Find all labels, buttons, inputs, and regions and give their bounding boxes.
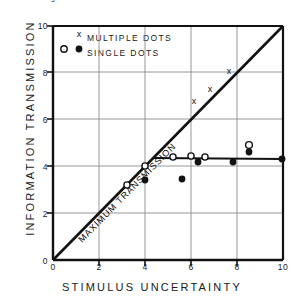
- legend-open-circle-icon: [61, 46, 67, 52]
- scatter-plot: MAXIMUM TRANSMISSION x x x: [0, 0, 304, 300]
- figure-container: Fig 4. Relation between information tran…: [0, 0, 304, 300]
- filled-circle-2: [179, 176, 186, 183]
- open-circle-6: [246, 142, 253, 149]
- open-circle-3: [170, 154, 176, 160]
- tick-marks: [47, 26, 237, 266]
- open-circle-1: [124, 182, 130, 188]
- x-marker-1: x: [192, 96, 197, 106]
- legend-markers: x: [61, 29, 83, 52]
- open-circle-2: [142, 163, 148, 169]
- x-marker-3: x: [227, 66, 232, 76]
- maximum-transmission-label: MAXIMUM TRANSMISSION: [76, 141, 178, 244]
- open-circle-5: [202, 154, 208, 160]
- legend-filled-circle-icon: [76, 46, 83, 53]
- filled-circle-6: [279, 156, 286, 163]
- x-marker-2: x: [208, 84, 213, 94]
- legend-x-icon: x: [77, 29, 82, 39]
- filled-circle-5: [246, 149, 253, 156]
- filled-circle-3: [195, 159, 202, 166]
- maximum-transmission-label-text: MAXIMUM TRANSMISSION: [76, 141, 178, 244]
- filled-circle-4: [230, 159, 237, 166]
- open-circle-4: [188, 153, 194, 159]
- filled-circle-1: [142, 177, 149, 184]
